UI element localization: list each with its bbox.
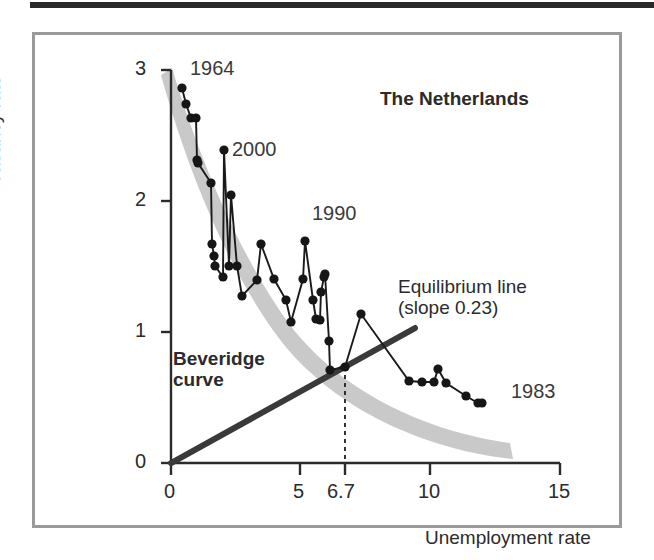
- xtick-label-15: 15: [548, 480, 570, 503]
- beveridge-curve-label-line1: Beveridge: [173, 348, 265, 369]
- xtick-label-5: 5: [293, 480, 304, 503]
- equilibrium-line-label-line1: Equilibrium line: [398, 276, 527, 297]
- equilibrium-line-label-line2: (slope 0.23): [398, 297, 527, 318]
- ytick-label-3: 3: [135, 57, 146, 80]
- ytick-label-2: 2: [135, 188, 146, 211]
- xtick-label-10: 10: [418, 480, 440, 503]
- top-rule-bar: [30, 2, 654, 8]
- beveridge-curve-label-line2: curve: [173, 369, 265, 390]
- region-title: The Netherlands: [380, 88, 529, 109]
- xtick-label-6-7: 6.7: [327, 480, 355, 503]
- year-label-1964: 1964: [190, 57, 235, 80]
- xtick-label-0: 0: [164, 480, 175, 503]
- x-axis-title: Unemployment rate: [425, 527, 591, 549]
- ytick-label-1: 1: [135, 319, 146, 342]
- ytick-label-0: 0: [135, 450, 146, 473]
- year-label-1990: 1990: [312, 202, 357, 225]
- equilibrium-line-label: Equilibrium line (slope 0.23): [398, 276, 527, 319]
- year-label-1983: 1983: [511, 380, 556, 403]
- y-axis-title: Vacancy rate: [0, 76, 5, 185]
- beveridge-curve-label: Beveridge curve: [173, 348, 265, 391]
- beveridge-curve-plot: [35, 35, 619, 525]
- figure-frame: 3 2 1 0 0 5 6.7 10 15 Vacancy rate Unemp…: [32, 32, 622, 528]
- year-label-2000: 2000: [232, 138, 277, 161]
